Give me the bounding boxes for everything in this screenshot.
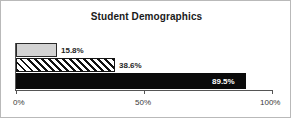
axis-tick-100 [272, 90, 273, 94]
chart-container: Student Demographics 15.8% 38.6% 89.5% 0… [0, 0, 291, 118]
axis-tick-50 [144, 90, 145, 94]
chart-title: Student Demographics [1, 11, 291, 22]
x-tick-label-50: 50% [135, 98, 151, 107]
bar-row: 15.8% [16, 43, 273, 57]
x-tick-label-100: 100% [260, 98, 280, 107]
axis-tick-0 [16, 90, 17, 94]
bar-series-1[interactable] [16, 43, 57, 57]
bar-value-label-1: 15.8% [61, 46, 84, 55]
bar-value-label-3: 89.5% [212, 77, 235, 86]
plot-area: 15.8% 38.6% 89.5% [16, 43, 273, 90]
bar-row: 89.5% [16, 73, 273, 89]
bar-value-label-2: 38.6% [119, 61, 142, 70]
bar-row: 38.6% [16, 58, 273, 72]
bar-series-2[interactable] [16, 58, 115, 72]
x-tick-label-0: 0% [13, 98, 25, 107]
